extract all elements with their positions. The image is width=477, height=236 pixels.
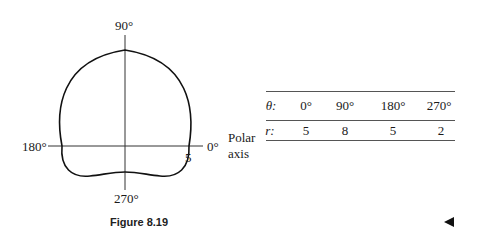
r-cell: 2 <box>438 124 445 137</box>
theta-cell: 270° <box>427 99 452 112</box>
polar-axis-label-line2: axis <box>228 147 249 160</box>
intercept-label: 5 <box>185 151 192 164</box>
theta-cell: 90° <box>336 99 354 112</box>
label-0-deg: 0° <box>207 140 219 153</box>
polar-graph <box>0 0 477 236</box>
r-cell: 5 <box>390 124 397 137</box>
figure-caption: Figure 8.19 <box>110 216 168 228</box>
polar-axis-label-line1: Polar <box>228 131 255 144</box>
label-90-deg: 90° <box>115 19 133 32</box>
left-triangle-icon[interactable] <box>444 217 454 227</box>
table-top-rule <box>266 91 455 92</box>
label-270-deg: 270° <box>114 192 139 205</box>
theta-cell: 0° <box>300 99 312 112</box>
table-bottom-rule <box>266 140 455 141</box>
theta-header: θ: <box>266 99 277 112</box>
table-middle-rule <box>266 120 455 121</box>
r-cell: 8 <box>342 124 349 137</box>
r-header: r: <box>265 124 274 137</box>
r-cell: 5 <box>303 124 310 137</box>
theta-cell: 180° <box>381 99 406 112</box>
label-180-deg: 180° <box>22 140 47 153</box>
